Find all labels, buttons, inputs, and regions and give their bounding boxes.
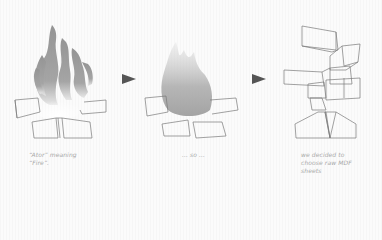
caption-line: ... so ... [182,151,222,159]
smoke-campfire [145,42,238,138]
caption-line: “Fire”. [29,159,99,167]
caption-line: choose raw MDF [301,159,361,167]
arrow-2 [252,74,266,84]
caption-so: ... so ... [182,151,222,159]
caption-mdf: we decided to choose raw MDF sheets [301,151,361,175]
caption-line: sheets [301,167,361,175]
fire-glow [34,96,82,120]
caption-line: we decided to [301,151,361,159]
burning-campfire [15,25,106,138]
flames [34,25,93,105]
stacked-mdf-blocks [284,26,360,138]
arrow-1 [122,74,136,84]
caption-line: “Ator” meaning [29,151,99,159]
smoke [161,42,212,116]
caption-fire: “Ator” meaning “Fire”. [29,151,99,167]
